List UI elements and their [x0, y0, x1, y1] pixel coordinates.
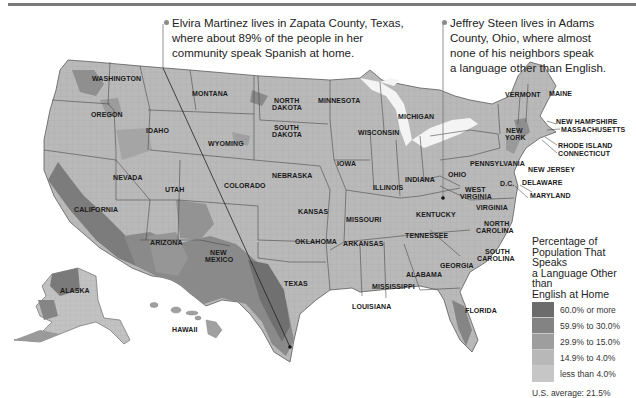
svg-text:SOUTH: SOUTH	[274, 124, 299, 131]
svg-text:WEST: WEST	[465, 186, 486, 193]
svg-text:ALABAMA: ALABAMA	[406, 271, 442, 278]
map-legend: Percentage of Population That Speaks a L…	[532, 236, 636, 398]
svg-text:WISCONSIN: WISCONSIN	[358, 129, 399, 136]
legend-label: 60.0% or more	[560, 305, 616, 315]
svg-text:D.C.: D.C.	[500, 180, 514, 187]
svg-text:OHIO: OHIO	[448, 171, 467, 178]
svg-text:NEW: NEW	[210, 249, 227, 256]
svg-text:MICHIGAN: MICHIGAN	[398, 113, 434, 120]
svg-text:MEXICO: MEXICO	[205, 256, 234, 263]
svg-text:PENNSYLVANIA: PENNSYLVANIA	[470, 160, 525, 167]
alaska	[14, 268, 130, 344]
svg-text:CAROLINA: CAROLINA	[477, 255, 515, 262]
svg-text:IDAHO: IDAHO	[146, 127, 170, 134]
svg-text:WYOMING: WYOMING	[208, 140, 244, 147]
svg-text:NEW HAMPSHIRE: NEW HAMPSHIRE	[556, 118, 618, 125]
svg-text:WASHINGTON: WASHINGTON	[92, 75, 141, 82]
svg-text:GEORGIA: GEORGIA	[440, 262, 474, 269]
svg-text:NORTH: NORTH	[274, 97, 299, 104]
svg-text:MARYLAND: MARYLAND	[530, 192, 571, 199]
svg-text:NORTH: NORTH	[484, 220, 509, 227]
svg-text:HAWAII: HAWAII	[172, 326, 198, 333]
svg-text:KENTUCKY: KENTUCKY	[416, 211, 456, 218]
svg-text:MINNESOTA: MINNESOTA	[318, 97, 360, 104]
svg-text:NEW JERSEY: NEW JERSEY	[528, 166, 575, 173]
svg-text:TEXAS: TEXAS	[284, 280, 308, 287]
svg-text:CONNECTICUT: CONNECTICUT	[558, 150, 611, 157]
svg-text:MAINE: MAINE	[549, 90, 572, 97]
svg-text:OKLAHOMA: OKLAHOMA	[295, 238, 337, 245]
legend-label: less than 4.0%	[560, 369, 616, 379]
svg-text:TENNESSEE: TENNESSEE	[405, 232, 449, 239]
legend-label: 29.9% to 15.0%	[560, 337, 620, 347]
callout-adams-text: Jeffrey Steen lives in Adams County, Ohi…	[450, 16, 606, 76]
svg-text:ILLINOIS: ILLINOIS	[373, 184, 404, 191]
svg-text:CAROLINA: CAROLINA	[476, 227, 514, 234]
svg-text:DAKOTA: DAKOTA	[272, 131, 302, 138]
svg-text:OREGON: OREGON	[91, 111, 123, 118]
svg-text:VIRGINIA: VIRGINIA	[476, 204, 508, 211]
svg-text:MISSOURI: MISSOURI	[346, 216, 381, 223]
svg-text:DAKOTA: DAKOTA	[272, 104, 302, 111]
svg-text:MISSISSIPPI: MISSISSIPPI	[372, 283, 415, 290]
svg-text:MASSACHUSETTS: MASSACHUSETTS	[561, 126, 626, 133]
svg-text:LOUISIANA: LOUISIANA	[352, 303, 391, 310]
legend-item: less than 4.0%	[532, 366, 636, 382]
legend-item: 14.9% to 4.0%	[532, 350, 636, 366]
svg-text:KANSAS: KANSAS	[298, 208, 328, 215]
svg-text:IOWA: IOWA	[337, 160, 356, 167]
svg-text:VIRGINIA: VIRGINIA	[460, 193, 492, 200]
legend-swatch	[532, 302, 554, 318]
legend-swatch	[532, 350, 554, 366]
svg-text:ARKANSAS: ARKANSAS	[343, 240, 384, 247]
svg-text:UTAH: UTAH	[165, 186, 184, 193]
legend-label: 14.9% to 4.0%	[560, 353, 615, 363]
svg-text:ALASKA: ALASKA	[60, 287, 90, 294]
svg-text:INDIANA: INDIANA	[405, 176, 435, 183]
legend-item: 60.0% or more	[532, 302, 636, 318]
legend-swatch	[532, 318, 554, 334]
legend-item: 59.9% to 30.0%	[532, 318, 636, 334]
svg-text:NEBRASKA: NEBRASKA	[272, 172, 312, 179]
adams-county-marker	[441, 196, 445, 200]
callout-adams-county: Jeffrey Steen lives in Adams County, Ohi…	[450, 16, 606, 76]
svg-text:MONTANA: MONTANA	[192, 90, 228, 97]
svg-text:ARIZONA: ARIZONA	[150, 239, 183, 246]
callout-bullet-icon	[164, 20, 169, 25]
svg-text:NEW: NEW	[506, 127, 523, 134]
svg-text:FLORIDA: FLORIDA	[465, 307, 497, 314]
callout-zapata-county: Elvira Martinez lives in Zapata County, …	[172, 16, 404, 61]
svg-text:SOUTH: SOUTH	[485, 248, 510, 255]
legend-item: 29.9% to 15.0%	[532, 334, 636, 350]
callout-bullet-icon	[442, 20, 447, 25]
svg-text:RHODE ISLAND: RHODE ISLAND	[558, 142, 612, 149]
legend-title: Percentage of Population That Speaks a L…	[532, 236, 636, 299]
callout-zapata-text: Elvira Martinez lives in Zapata County, …	[172, 16, 404, 61]
svg-text:COLORADO: COLORADO	[224, 182, 266, 189]
legend-label: 59.9% to 30.0%	[560, 321, 620, 331]
svg-text:DELAWARE: DELAWARE	[522, 179, 563, 186]
zapata-county-marker	[288, 345, 292, 349]
legend-swatch	[532, 334, 554, 350]
svg-text:CALIFORNIA: CALIFORNIA	[74, 206, 118, 213]
svg-text:NEVADA: NEVADA	[113, 174, 143, 181]
us-average: U.S. average: 21.5%	[532, 388, 636, 398]
legend-swatch	[532, 366, 554, 382]
svg-text:YORK: YORK	[505, 134, 526, 141]
svg-text:VERMONT: VERMONT	[505, 91, 541, 98]
